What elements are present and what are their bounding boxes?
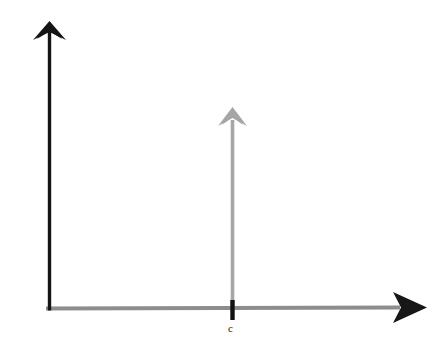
horizontal-axis-shaft xyxy=(46,308,400,309)
axis-label-c: c xyxy=(228,323,233,334)
impulse-diagram-svg xyxy=(0,0,434,346)
figure-canvas: c xyxy=(0,0,434,346)
